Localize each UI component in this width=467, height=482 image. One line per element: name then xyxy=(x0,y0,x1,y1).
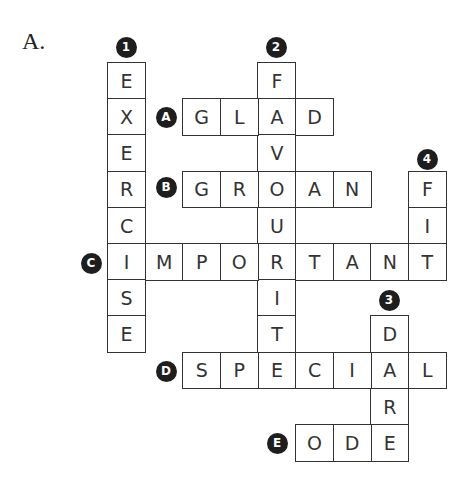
crossword-cell[interactable]: N xyxy=(333,171,372,209)
crossword-cell[interactable]: T xyxy=(295,243,334,281)
crossword-cell[interactable]: P xyxy=(220,352,259,390)
crossword-cell[interactable]: I xyxy=(333,352,372,390)
crossword-cell[interactable]: O xyxy=(257,171,296,209)
crossword-cell[interactable]: A xyxy=(257,98,296,136)
crossword-cell[interactable]: I xyxy=(107,243,146,281)
crossword-cell[interactable]: R xyxy=(107,171,146,209)
clue-number-badge-c: C xyxy=(81,253,102,274)
crossword-cell[interactable]: E xyxy=(107,134,146,172)
crossword-cell[interactable]: S xyxy=(182,352,221,390)
clue-number-badge-1: 1 xyxy=(116,37,137,58)
crossword-cell[interactable]: A xyxy=(333,243,372,281)
crossword-cell[interactable]: L xyxy=(220,98,259,136)
section-label: A. xyxy=(22,28,45,55)
crossword-cell[interactable]: E xyxy=(107,315,146,353)
crossword-cell[interactable]: A xyxy=(370,352,409,390)
crossword-cell[interactable]: O xyxy=(295,424,334,462)
crossword-cell[interactable]: X xyxy=(107,98,146,136)
clue-number-badge-d: D xyxy=(156,361,177,382)
clue-number-badge-a: A xyxy=(156,107,177,128)
crossword-cell[interactable]: U xyxy=(257,207,296,245)
crossword-cell[interactable]: E xyxy=(370,424,409,462)
crossword-cell[interactable]: D xyxy=(370,315,409,353)
crossword-cell[interactable]: I xyxy=(408,207,447,245)
crossword-cell[interactable]: O xyxy=(220,243,259,281)
crossword-cell[interactable]: R xyxy=(220,171,259,209)
crossword-cell[interactable]: R xyxy=(370,388,409,426)
clue-number-badge-4: 4 xyxy=(417,149,438,170)
crossword-cell[interactable]: T xyxy=(257,315,296,353)
crossword-cell[interactable]: R xyxy=(257,243,296,281)
crossword-cell[interactable]: I xyxy=(257,279,296,317)
crossword-cell[interactable]: M xyxy=(145,243,184,281)
clue-number-badge-2: 2 xyxy=(266,37,287,58)
crossword-cell[interactable]: G xyxy=(182,98,221,136)
clue-number-badge-3: 3 xyxy=(379,290,400,311)
crossword-cell[interactable]: V xyxy=(257,134,296,172)
crossword-cell[interactable]: D xyxy=(333,424,372,462)
clue-number-badge-e: E xyxy=(267,433,288,454)
crossword-cell[interactable]: E xyxy=(107,62,146,100)
crossword-cell[interactable]: P xyxy=(182,243,221,281)
crossword-cell[interactable]: L xyxy=(408,352,447,390)
crossword-cell[interactable]: A xyxy=(295,171,334,209)
crossword-cell[interactable]: C xyxy=(295,352,334,390)
crossword-cell[interactable]: F xyxy=(408,171,447,209)
crossword-cell[interactable]: E xyxy=(257,352,296,390)
crossword-cell[interactable]: D xyxy=(295,98,334,136)
crossword-cell[interactable]: S xyxy=(107,279,146,317)
crossword-cell[interactable]: F xyxy=(257,62,296,100)
crossword-cell[interactable]: T xyxy=(408,243,447,281)
crossword-cell[interactable]: N xyxy=(370,243,409,281)
crossword-cell[interactable]: C xyxy=(107,207,146,245)
crossword-cell[interactable]: G xyxy=(182,171,221,209)
clue-number-badge-b: B xyxy=(156,177,177,198)
